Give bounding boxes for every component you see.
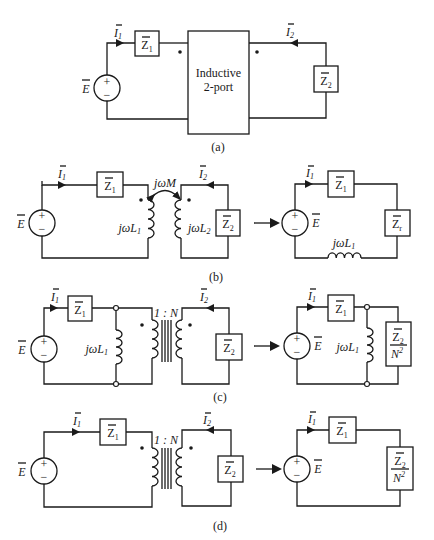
polarity-dot — [188, 323, 192, 327]
inductor-l2 — [175, 200, 181, 238]
source-label: E — [17, 343, 26, 357]
current-arrow-i2 — [206, 304, 214, 312]
caption-a: (a) — [211, 140, 224, 154]
wire — [361, 236, 397, 258]
i1-label: I1 — [72, 414, 81, 429]
wire — [354, 184, 397, 210]
wire — [182, 358, 229, 384]
wire — [123, 185, 148, 200]
polarity-dot — [178, 50, 182, 54]
source-label: E — [16, 217, 25, 231]
eq-i1-label: I1 — [307, 289, 316, 304]
current-arrow-i2 — [206, 181, 214, 189]
l1-label: jωL1 — [84, 342, 108, 357]
wire — [354, 307, 398, 322]
transformer-secondary — [176, 320, 182, 358]
wire — [107, 43, 135, 80]
equivalence-arrowhead — [270, 341, 280, 351]
polarity-dot — [255, 50, 259, 54]
plus-sign: + — [292, 209, 299, 223]
eq-inductor-l1 — [328, 253, 361, 258]
wire — [297, 430, 329, 456]
turns-ratio-label: 1 : N — [154, 433, 179, 447]
wire — [44, 308, 68, 336]
eq-source-label: E — [313, 462, 322, 476]
eq-source-label: E — [313, 339, 322, 353]
wire — [297, 482, 400, 506]
l2-label: jωL2 — [186, 221, 210, 236]
current-arrow-i2 — [290, 39, 298, 47]
current-arrow-i1 — [307, 426, 315, 434]
source-label: E — [81, 82, 90, 96]
wire — [182, 482, 231, 506]
i2-label: I2 — [285, 25, 294, 40]
eq-l1-label: jωL1 — [331, 236, 355, 251]
wire — [295, 236, 328, 258]
i1-label: I1 — [113, 26, 122, 41]
transformer-primary — [152, 448, 158, 486]
l1-label: jωL1 — [117, 221, 141, 236]
minus-sign: − — [294, 345, 301, 359]
minus-sign: − — [294, 468, 301, 482]
block-label-line1: Inductive — [196, 66, 241, 80]
minus-sign: − — [41, 470, 48, 484]
transformer-secondary — [176, 448, 182, 486]
polarity-dot — [139, 198, 143, 202]
node-terminal — [114, 382, 119, 387]
polarity-dot — [140, 446, 144, 450]
wire — [44, 484, 152, 507]
wire — [181, 236, 228, 258]
plus-sign: + — [294, 332, 301, 346]
circuit-figure: + − E Z1 I1 Inductive 2-port I2 Z2 (a) — [0, 0, 434, 540]
eq-source-label: E — [311, 216, 320, 230]
equivalence-arrowhead — [270, 218, 280, 228]
caption-d: (d) — [213, 519, 227, 533]
wire — [249, 43, 326, 66]
source-label: E — [17, 465, 26, 479]
transformer-primary — [152, 320, 158, 358]
minus-sign: − — [292, 222, 299, 236]
minus-sign: − — [104, 88, 111, 102]
polarity-dot — [187, 198, 191, 202]
current-arrow-i1 — [72, 428, 80, 436]
wire — [107, 96, 188, 119]
node-terminal — [114, 306, 119, 311]
eq-shunt-inductor-l1 — [367, 328, 373, 362]
i2-label: I2 — [199, 290, 208, 305]
wire — [295, 184, 328, 210]
panel-a: + − E Z1 I1 Inductive 2-port I2 Z2 (a) — [81, 24, 338, 154]
wire — [92, 308, 152, 320]
wire — [44, 358, 152, 384]
block-label-line2: 2-port — [204, 80, 234, 94]
panel-b: + − E I1 Z1 jωL1 jωM jωL2 I2 Z2 — [16, 166, 410, 284]
i1-label: I1 — [57, 167, 66, 182]
wire — [297, 307, 328, 333]
plus-sign: + — [41, 335, 48, 349]
wire — [42, 236, 148, 258]
mutual-coupling-arrow — [152, 191, 178, 198]
wire — [42, 181, 97, 185]
wire — [126, 432, 152, 448]
current-arrow-i1 — [305, 180, 313, 188]
current-arrow-i1 — [50, 304, 58, 312]
shunt-inductor-l1 — [116, 330, 122, 364]
plus-sign: + — [104, 75, 111, 89]
i1-label: I1 — [50, 290, 59, 305]
panel-c: I1 + − E Z1 jωL1 1 : N I2 Z2 — [17, 289, 411, 404]
plus-sign: + — [294, 455, 301, 469]
minus-sign: − — [41, 348, 48, 362]
inductor-l1 — [148, 200, 154, 238]
wire — [356, 430, 400, 447]
wire — [182, 430, 231, 456]
current-arrow-i1 — [58, 181, 66, 189]
wire — [181, 185, 228, 210]
plus-sign: + — [39, 209, 46, 223]
equivalence-arrowhead — [272, 464, 282, 474]
current-arrow-i1 — [307, 303, 315, 311]
i2-label: I2 — [202, 413, 211, 428]
caption-b: (b) — [209, 270, 223, 284]
polarity-dot — [140, 323, 144, 327]
caption-c: (c) — [213, 390, 226, 404]
turns-ratio-label: 1 : N — [154, 306, 179, 320]
i2-label: I2 — [198, 167, 207, 182]
